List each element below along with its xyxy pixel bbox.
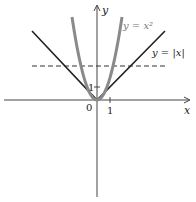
y-axis-label: y [101,4,109,17]
graph-canvas: y x 0 1 1 y = x² y = |x| [0,0,196,202]
parabola-label: y = x² [122,20,153,31]
origin-label: 0 [86,102,92,113]
x-axis-label: x [184,104,191,117]
x-tick-label-1: 1 [107,105,113,116]
y-tick-label-1: 1 [88,82,94,93]
absolute-value-label: y = |x| [151,47,185,59]
